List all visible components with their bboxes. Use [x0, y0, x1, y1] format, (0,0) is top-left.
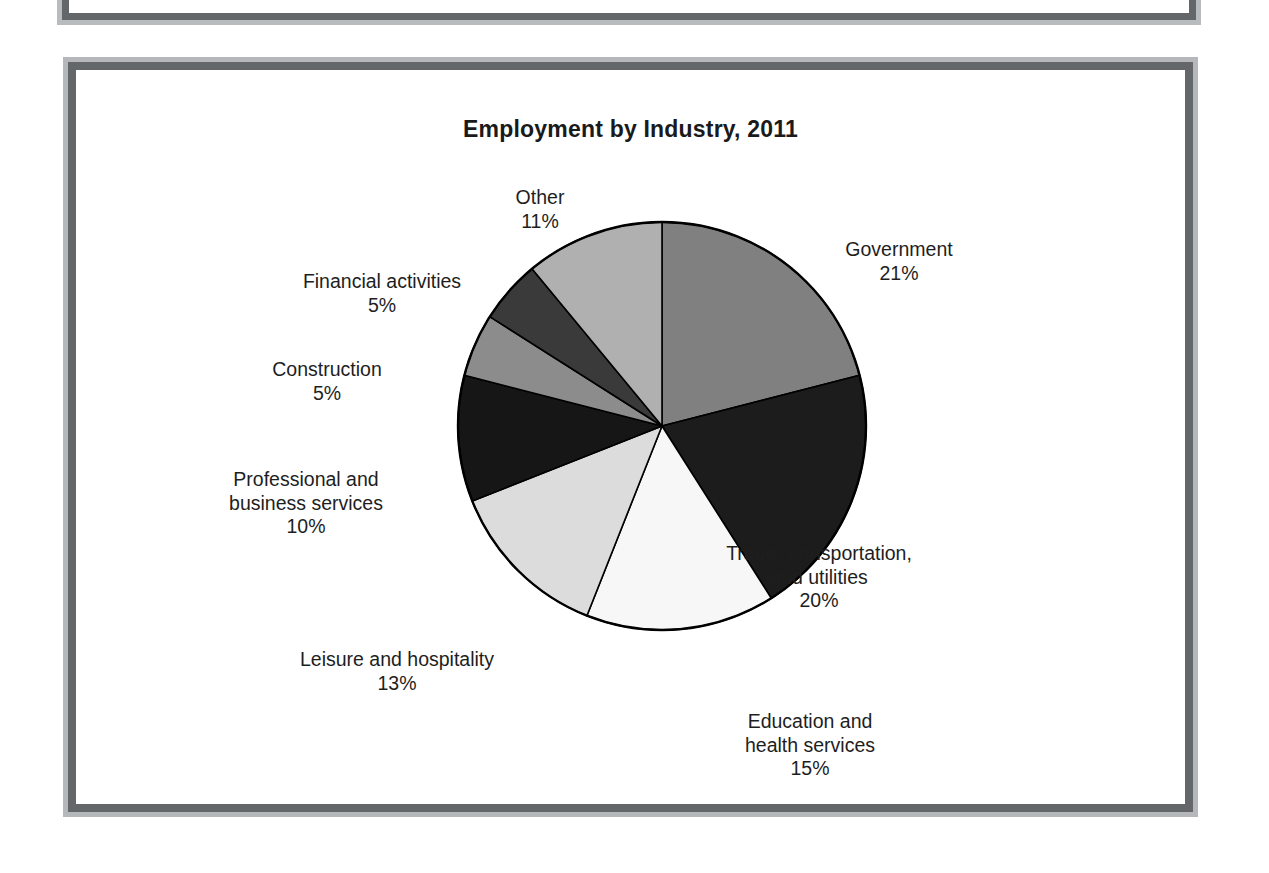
- slice-label-financial-value: 5%: [274, 294, 490, 318]
- slice-label-construction-name: Construction: [272, 358, 381, 380]
- slice-label-education-line2: health services: [700, 734, 920, 758]
- slice-label-other-value: 11%: [480, 210, 600, 234]
- slice-label-professional-line1: Professional and: [233, 468, 378, 490]
- chart-canvas: Employment by Industry, 2011 Other 11% G…: [76, 70, 1185, 804]
- slice-label-government-name: Government: [845, 238, 952, 260]
- slice-label-government-value: 21%: [794, 262, 1004, 286]
- slice-label-education-line1: Education and: [748, 710, 873, 732]
- slice-label-financial-activities: Financial activities 5%: [274, 270, 490, 317]
- slice-label-professional-value: 10%: [196, 515, 416, 539]
- slice-label-leisure-name: Leisure and hospitality: [300, 648, 494, 670]
- slice-label-trade-transportation-utilities: Trade, transportation, and utilities 20%: [684, 542, 954, 613]
- slice-label-trade-value: 20%: [684, 589, 954, 613]
- slice-label-trade-line2: and utilities: [684, 566, 954, 590]
- slice-label-other-name: Other: [516, 186, 565, 208]
- page-frame-partial-top: [62, 0, 1196, 20]
- slice-label-leisure-value: 13%: [262, 672, 532, 696]
- slice-label-construction: Construction 5%: [232, 358, 422, 405]
- slice-label-education-value: 15%: [700, 757, 920, 781]
- slice-label-professional-line2: business services: [196, 492, 416, 516]
- slice-label-other: Other 11%: [480, 186, 600, 233]
- slice-label-government: Government 21%: [794, 238, 1004, 285]
- slice-label-leisure-hospitality: Leisure and hospitality 13%: [262, 648, 532, 695]
- slice-label-construction-value: 5%: [232, 382, 422, 406]
- slice-label-education-health-services: Education and health services 15%: [700, 710, 920, 781]
- slice-label-trade-line1: Trade, transportation,: [726, 542, 912, 564]
- page-frame-main: Employment by Industry, 2011 Other 11% G…: [68, 62, 1193, 812]
- slice-label-professional-business-services: Professional and business services 10%: [196, 468, 416, 539]
- chart-title: Employment by Industry, 2011: [76, 116, 1185, 143]
- slice-label-financial-name: Financial activities: [303, 270, 461, 292]
